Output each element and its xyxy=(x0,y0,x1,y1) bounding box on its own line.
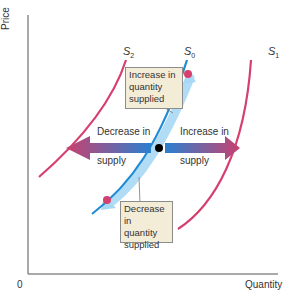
note-bottom-leader xyxy=(139,177,140,203)
point-lower xyxy=(103,196,111,204)
y-axis-label: Price xyxy=(0,7,11,30)
supply-shift-diagram xyxy=(0,0,296,302)
point-upper xyxy=(184,70,192,78)
note-increase-quantity-supplied: Increase in quantity supplied xyxy=(125,67,183,109)
equilibrium-point xyxy=(155,144,163,152)
note-decrease-quantity-supplied: Decrease in quantity supplied xyxy=(120,201,173,243)
s1-label: S1 xyxy=(268,45,279,59)
origin-label: 0 xyxy=(17,279,23,290)
decrease-supply-label-top: Decrease in xyxy=(97,126,150,137)
s0-label: S0 xyxy=(184,45,195,59)
increase-supply-label-bottom: supply xyxy=(180,155,209,166)
increase-supply-label-top: Increase in xyxy=(180,126,229,137)
x-axis-label: Quantity xyxy=(245,279,282,290)
s2-label: S2 xyxy=(123,45,134,59)
decrease-supply-label-bottom: supply xyxy=(97,155,126,166)
